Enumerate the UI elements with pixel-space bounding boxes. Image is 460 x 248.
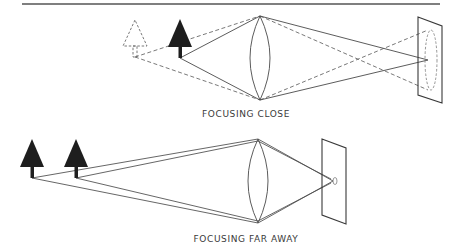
focus-spot-icon bbox=[333, 178, 337, 185]
panel-focusing-close: FOCUSING CLOSE bbox=[123, 16, 442, 119]
optics-figure: FOCUSING CLOSE bbox=[0, 0, 460, 248]
screen-icon bbox=[322, 139, 346, 224]
panel-focusing-far: FOCUSING FAR AWAY bbox=[20, 139, 346, 244]
screen-icon bbox=[418, 17, 442, 103]
virtual-tree-icon bbox=[123, 20, 147, 57]
lens-icon bbox=[250, 16, 270, 100]
solid-rays bbox=[180, 16, 428, 100]
lens-icon bbox=[248, 139, 268, 223]
near-tree-icon bbox=[168, 19, 192, 58]
far-tree-1-icon bbox=[20, 139, 44, 178]
panel-label: FOCUSING CLOSE bbox=[202, 109, 290, 119]
panel-label: FOCUSING FAR AWAY bbox=[194, 234, 299, 244]
